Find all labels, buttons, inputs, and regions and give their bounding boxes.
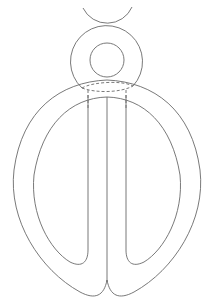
ring-outer xyxy=(71,26,143,88)
crossing-dashed-lower xyxy=(82,86,133,92)
ring-inner xyxy=(90,43,124,77)
crossing-dashed-upper xyxy=(82,82,133,88)
loop-inner-right xyxy=(107,95,181,264)
knot-loop-diagram xyxy=(0,0,211,308)
top-arc xyxy=(83,7,132,23)
loop-inner-left xyxy=(33,95,107,264)
